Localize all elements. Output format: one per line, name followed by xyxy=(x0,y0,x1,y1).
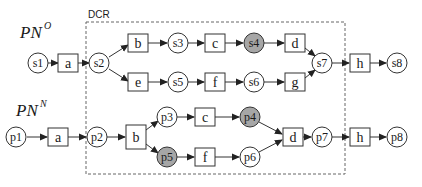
place-s8: s8 xyxy=(387,53,407,73)
svg-text:b: b xyxy=(135,36,142,51)
transition-a: a xyxy=(58,54,78,72)
svg-text:s7: s7 xyxy=(317,56,328,70)
svg-text:b: b xyxy=(133,130,140,145)
place-s6: s6 xyxy=(244,72,264,92)
transition-d-n: d xyxy=(283,128,303,146)
transition-e: e xyxy=(128,73,148,91)
svg-text:s8: s8 xyxy=(392,56,403,70)
transition-a-n: a xyxy=(48,128,68,146)
transition-b: b xyxy=(128,34,148,52)
svg-text:p7: p7 xyxy=(316,130,328,144)
svg-text:s3: s3 xyxy=(173,36,184,50)
svg-text:s6: s6 xyxy=(249,75,260,89)
place-s7: s7 xyxy=(312,53,332,73)
svg-text:h: h xyxy=(357,56,364,71)
svg-text:g: g xyxy=(292,75,299,90)
svg-text:f: f xyxy=(213,75,218,90)
svg-text:d: d xyxy=(290,130,297,145)
svg-text:f: f xyxy=(203,150,208,165)
svg-text:s5: s5 xyxy=(173,75,184,89)
net-title-pn-n: PN xyxy=(15,101,39,120)
place-s5: s5 xyxy=(168,72,188,92)
transition-g: g xyxy=(285,73,305,91)
petri-net-diagram: DCR PN O s1 s2 s3 s4 s5 xyxy=(0,0,422,187)
svg-text:s1: s1 xyxy=(33,56,44,70)
transition-c: c xyxy=(205,34,225,52)
svg-text:a: a xyxy=(65,56,72,71)
transition-h-n: h xyxy=(350,128,370,146)
svg-text:h: h xyxy=(357,130,364,145)
svg-text:p8: p8 xyxy=(391,130,403,144)
transition-b-n: b xyxy=(126,125,146,149)
place-p2: p2 xyxy=(87,127,107,147)
svg-text:c: c xyxy=(212,36,218,51)
svg-text:a: a xyxy=(55,130,62,145)
svg-text:p6: p6 xyxy=(244,150,256,164)
dcr-label: DCR xyxy=(88,9,110,20)
svg-text:p1: p1 xyxy=(10,130,22,144)
transition-f-n: f xyxy=(195,148,215,166)
place-p6: p6 xyxy=(240,147,260,167)
place-p3: p3 xyxy=(157,107,177,127)
place-s3: s3 xyxy=(168,33,188,53)
transition-c-n: c xyxy=(195,108,215,126)
place-p4-highlighted: p4 xyxy=(240,107,260,127)
transition-h: h xyxy=(350,54,370,72)
svg-text:p3: p3 xyxy=(161,110,173,124)
svg-text:s4: s4 xyxy=(249,36,260,50)
svg-text:e: e xyxy=(135,75,141,90)
svg-text:p5: p5 xyxy=(161,150,173,164)
transition-f: f xyxy=(205,73,225,91)
net-pn-n: PN N p1 p2 p3 p4 p5 p6 p7 p8 a b c f xyxy=(6,98,407,167)
place-p5-highlighted: p5 xyxy=(157,147,177,167)
net-superscript-o: O xyxy=(44,20,51,31)
net-pn-o: PN O s1 s2 s3 s4 s5 s6 s7 s8 xyxy=(19,20,407,92)
svg-text:d: d xyxy=(292,36,299,51)
place-s1: s1 xyxy=(28,53,48,73)
svg-text:p2: p2 xyxy=(91,130,103,144)
place-p1: p1 xyxy=(6,127,26,147)
place-p8: p8 xyxy=(387,127,407,147)
svg-text:p4: p4 xyxy=(244,110,256,124)
net-superscript-n: N xyxy=(39,98,48,109)
net-title-pn-o: PN xyxy=(19,23,43,42)
place-s4-highlighted: s4 xyxy=(244,33,264,53)
place-s2: s2 xyxy=(89,53,109,73)
svg-text:c: c xyxy=(202,110,208,125)
transition-d: d xyxy=(285,34,305,52)
place-p7: p7 xyxy=(312,127,332,147)
svg-text:s2: s2 xyxy=(94,56,105,70)
